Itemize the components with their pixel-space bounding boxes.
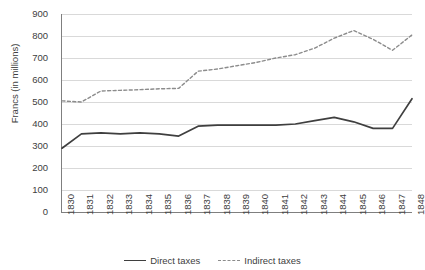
x-axis-tick-label: 1839 <box>241 194 251 215</box>
legend-label: Direct taxes <box>150 255 200 266</box>
y-axis-tick-label: 900 <box>32 9 48 19</box>
series-lines <box>62 14 412 212</box>
line-chart: Francs (in millions) 9008007006005004003… <box>0 0 425 270</box>
legend-swatch-icon <box>124 260 146 261</box>
y-axis-tick-label: 300 <box>32 141 48 151</box>
y-axis-tick-label: 800 <box>32 31 48 41</box>
series-line <box>62 99 412 149</box>
x-axis-tick-label: 1838 <box>222 194 232 215</box>
plot-area <box>62 14 412 212</box>
y-axis-tick-label: 0 <box>43 207 48 217</box>
x-axis-tick-label: 1842 <box>299 194 309 215</box>
x-axis-tick-label: 1833 <box>124 194 134 215</box>
x-axis-tick-label: 1840 <box>260 194 270 215</box>
y-axis-labels: 9008007006005004003002001000 <box>0 0 56 270</box>
x-axis-tick-label: 1836 <box>183 194 193 215</box>
legend-entry[interactable]: Indirect taxes <box>218 255 301 266</box>
x-axis-tick-label: 1835 <box>163 194 173 215</box>
x-axis-tick-label: 1847 <box>397 194 407 215</box>
x-axis-tick-label: 1831 <box>85 194 95 215</box>
y-axis-tick-label: 600 <box>32 75 48 85</box>
legend-swatch-icon <box>218 260 240 261</box>
legend-label: Indirect taxes <box>244 255 301 266</box>
series-line <box>62 31 412 103</box>
x-axis-tick-label: 1846 <box>377 194 387 215</box>
x-axis-tick-label: 1845 <box>358 194 368 215</box>
x-axis-tick-label: 1832 <box>105 194 115 215</box>
x-axis-tick-label: 1848 <box>416 194 425 215</box>
x-axis-tick-label: 1837 <box>202 194 212 215</box>
x-axis-tick-label: 1834 <box>144 194 154 215</box>
x-axis-tick-label: 1844 <box>338 194 348 215</box>
y-axis-tick-label: 500 <box>32 97 48 107</box>
x-axis-tick-label: 1843 <box>319 194 329 215</box>
y-axis-tick-label: 200 <box>32 163 48 173</box>
y-axis-tick-label: 100 <box>32 185 48 195</box>
legend-entry[interactable]: Direct taxes <box>124 255 200 266</box>
y-axis-tick-label: 400 <box>32 119 48 129</box>
y-axis-tick-label: 700 <box>32 53 48 63</box>
x-axis-tick-label: 1830 <box>66 194 76 215</box>
x-axis-tick-label: 1841 <box>280 194 290 215</box>
chart-legend: Direct taxesIndirect taxes <box>0 252 425 268</box>
